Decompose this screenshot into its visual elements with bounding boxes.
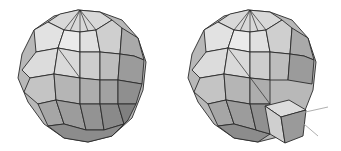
faceted-sphere-left — [18, 10, 146, 142]
diagram-canvas — [0, 0, 341, 151]
